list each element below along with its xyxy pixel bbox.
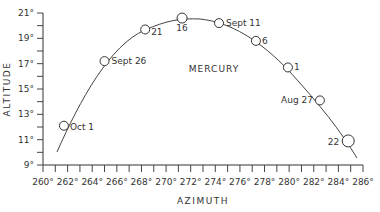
data-point-marker [141, 25, 150, 34]
data-point-marker [100, 57, 109, 66]
y-tick-label: 13° [18, 109, 34, 119]
data-point-label: 1 [294, 62, 300, 72]
y-tick-label: 21° [18, 8, 34, 18]
y-tick-label: 19° [18, 33, 34, 43]
altitude-azimuth-chart: 260°262°264°266°268°270°272°274°276°278°… [0, 0, 380, 212]
x-tick-label: 264° [81, 177, 103, 187]
y-tick-label: 17° [18, 59, 34, 69]
data-point-label: Sept 11 [226, 18, 261, 28]
data-point-label: 6 [262, 36, 268, 46]
y-tick-label: 11° [18, 135, 34, 145]
x-tick-label: 286° [352, 177, 374, 187]
x-tick-label: 266° [106, 177, 128, 187]
x-axis-ticks: 260°262°264°266°268°270°272°274°276°278°… [32, 165, 374, 187]
data-point-marker [283, 63, 292, 72]
y-tick-label: 15° [18, 84, 34, 94]
y-axis-title: ALTITUDE [2, 62, 12, 117]
data-point-marker [315, 96, 324, 105]
x-tick-label: 278° [254, 177, 276, 187]
x-tick-label: 262° [57, 177, 79, 187]
x-tick-label: 282° [303, 177, 325, 187]
data-point-marker [251, 36, 260, 45]
data-point-label: Sept 26 [112, 56, 147, 66]
x-tick-label: 268° [131, 177, 153, 187]
x-tick-label: 284° [328, 177, 350, 187]
y-tick-label: 9° [24, 160, 34, 170]
x-tick-label: 276° [229, 177, 251, 187]
data-point-label: Oct 1 [70, 122, 94, 132]
data-point-marker [215, 19, 224, 28]
data-point-label: 16 [176, 23, 188, 33]
x-tick-label: 274° [204, 177, 226, 187]
x-axis-title: AZIMUTH [177, 196, 229, 206]
x-tick-label: 260° [32, 177, 54, 187]
x-tick-label: 280° [278, 177, 300, 187]
chart-title: MERCURY [189, 64, 239, 74]
mercury-path-curve [57, 19, 357, 158]
data-point-marker [177, 13, 187, 23]
data-point-marker [342, 135, 354, 147]
data-points: Oct 1Sept 262116Sept 1161Aug 2722 [59, 13, 354, 147]
data-point-marker [59, 121, 68, 130]
data-point-label: 21 [151, 27, 162, 37]
data-point-label: 22 [328, 137, 339, 147]
data-point-label: Aug 27 [281, 95, 313, 105]
y-axis-ticks: 9°11°13°15°17°19°21° [18, 8, 43, 170]
x-tick-label: 272° [180, 177, 202, 187]
x-tick-label: 270° [155, 177, 177, 187]
